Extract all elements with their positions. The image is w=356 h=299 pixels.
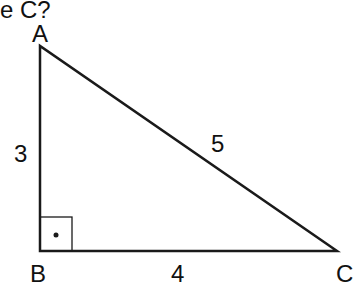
side-label-bc: 4	[171, 260, 184, 287]
right-triangle	[40, 46, 337, 251]
vertex-label-b: B	[30, 260, 46, 287]
vertex-label-a: A	[32, 20, 48, 47]
right-angle-dot	[54, 233, 59, 238]
side-label-ac: 5	[211, 130, 224, 157]
triangle-diagram: e C? A B C 3 5 4	[0, 0, 356, 299]
side-label-ab: 3	[14, 140, 27, 167]
vertex-label-c: C	[336, 260, 353, 287]
